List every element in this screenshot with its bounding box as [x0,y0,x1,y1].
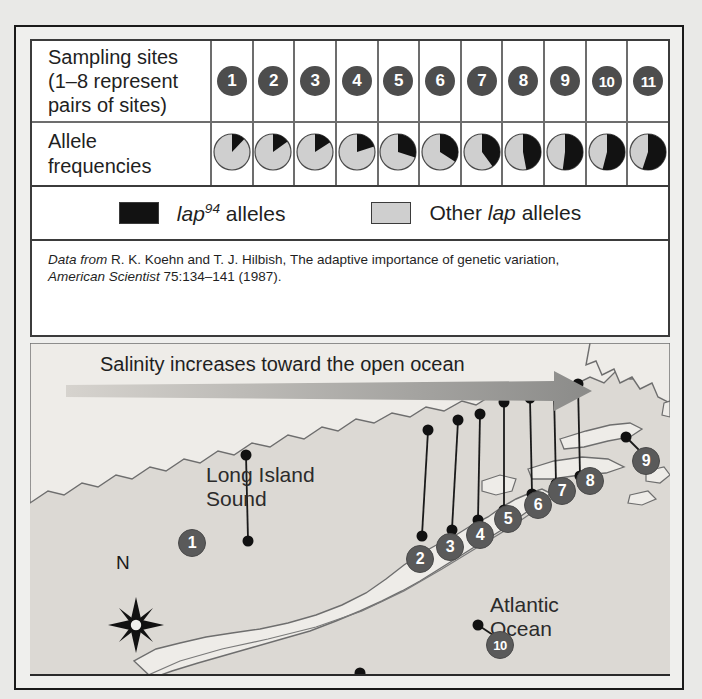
allele-pie-cell-4 [337,123,379,185]
site-number-badge-9: 9 [550,66,580,96]
row-label-allele-frequencies: Allele frequencies [32,123,212,185]
site-dot-10 [473,620,484,631]
site-cell-7: 7 [462,41,504,121]
site-cell-4: 4 [337,41,379,121]
compass-north-label: N [116,551,130,575]
site-number-cells: 1234567891011 [212,41,668,121]
site-cell-11: 11 [628,41,668,121]
site-dot-2-south [417,531,428,542]
legend-label-other-lap: Other lap alleles [429,201,581,225]
site-dot-4-north [475,409,486,420]
site-dot-2-north [423,425,434,436]
pie-chart-site-7 [463,133,501,175]
site-number-badge-11: 11 [633,66,663,96]
site-number-badge-6: 6 [425,66,455,96]
site-dot-1-south [243,536,254,547]
site-dot-3-north [453,415,464,426]
site-number-badge-3: 3 [300,66,330,96]
chart-legend: lap94 alleles Other lap alleles [32,187,668,241]
map-site-badge-8[interactable]: 8 [576,467,604,495]
data-table-panel: Sampling sites (1–8 represent pairs of s… [30,39,670,337]
pie-chart-site-11 [629,133,667,175]
pie-chart-site-4 [338,133,376,175]
allele-pie-cell-5 [379,123,421,185]
allele-pie-cell-7 [462,123,504,185]
map-site-badge-11[interactable]: 11 [372,675,400,676]
site-number-badge-2: 2 [258,66,288,96]
site-cell-2: 2 [254,41,296,121]
map-site-badge-7[interactable]: 7 [548,477,576,505]
citation-journal: American Scientist [48,269,160,284]
map-panel: Salinity increases toward the open ocean… [30,343,670,676]
site-dot-1-north [241,450,252,461]
table-row-sampling-sites: Sampling sites (1–8 represent pairs of s… [32,41,668,123]
site-dot-9 [621,432,632,443]
row-label-sampling-sites: Sampling sites (1–8 represent pairs of s… [32,41,212,121]
allele-pie-cell-1 [212,123,254,185]
map-label-long-island-sound: Long Island Sound [206,463,315,511]
pie-chart-site-10 [588,133,626,175]
citation-line2-rest: 75:134–141 (1987). [160,269,282,284]
map-site-badge-10[interactable]: 10 [486,631,514,659]
allele-pie-cell-2 [254,123,296,185]
allele-frequencies-label-line2: frequencies [48,154,151,179]
site-number-badge-5: 5 [383,66,413,96]
map-label-atlantic-line1: Atlantic [490,593,559,617]
pie-chart-site-5 [379,133,417,175]
site-number-badge-4: 4 [342,66,372,96]
map-site-badge-4[interactable]: 4 [466,521,494,549]
site-cell-9: 9 [545,41,587,121]
legend-entry-other-lap: Other lap alleles [371,201,581,225]
legend-swatch-black [119,202,159,224]
figure-container: Sampling sites (1–8 represent pairs of s… [14,25,684,690]
allele-pie-cell-11 [628,123,668,185]
citation-line-1: Data from R. K. Koehn and T. J. Hilbish,… [48,251,668,268]
map-site-badge-2[interactable]: 2 [406,545,434,573]
pie-chart-site-9 [546,133,584,175]
map-graphic [30,343,670,676]
site-cell-10: 10 [587,41,629,121]
sampling-sites-label-line3: pairs of sites) [48,93,178,117]
allele-frequencies-label-line1: Allele [48,129,151,154]
allele-pie-cell-6 [420,123,462,185]
site-cell-1: 1 [212,41,254,121]
allele-pie-cell-9 [545,123,587,185]
pie-chart-site-2 [254,133,292,175]
legend-label-lap94: lap94 alleles [177,201,286,226]
map-site-badge-9[interactable]: 9 [632,447,660,475]
pie-chart-site-8 [504,133,542,175]
pie-chart-site-1 [213,133,251,175]
sampling-sites-label-line1: Sampling sites [48,45,178,69]
site-cell-6: 6 [420,41,462,121]
pie-chart-site-3 [296,133,334,175]
salinity-arrow-caption: Salinity increases toward the open ocean [100,353,465,376]
citation-line-2: American Scientist 75:134–141 (1987). [48,268,668,285]
map-label-lis-line2: Sound [206,487,315,511]
site-number-badge-1: 1 [217,66,247,96]
site-number-badge-8: 8 [508,66,538,96]
citation-block: Data from R. K. Koehn and T. J. Hilbish,… [32,241,668,297]
site-cell-5: 5 [379,41,421,121]
site-cell-3: 3 [295,41,337,121]
allele-pie-cell-10 [587,123,629,185]
sampling-sites-label-line2: (1–8 represent [48,69,178,93]
map-label-lis-line1: Long Island [206,463,315,487]
citation-data-from: Data from [48,252,107,267]
site-number-badge-10: 10 [592,66,622,96]
pie-chart-site-6 [421,133,459,175]
pie-chart-cells [212,123,668,185]
citation-line1-rest: R. K. Koehn and T. J. Hilbish, The adapt… [107,252,559,267]
legend-swatch-grey [371,202,411,224]
map-site-badge-1[interactable]: 1 [178,529,206,557]
site-number-badge-7: 7 [467,66,497,96]
allele-pie-cell-8 [503,123,545,185]
table-row-allele-frequencies: Allele frequencies [32,123,668,187]
map-site-badge-3[interactable]: 3 [436,533,464,561]
allele-pie-cell-3 [295,123,337,185]
map-site-badge-5[interactable]: 5 [494,505,522,533]
legend-entry-lap94: lap94 alleles [119,201,286,226]
site-cell-8: 8 [503,41,545,121]
